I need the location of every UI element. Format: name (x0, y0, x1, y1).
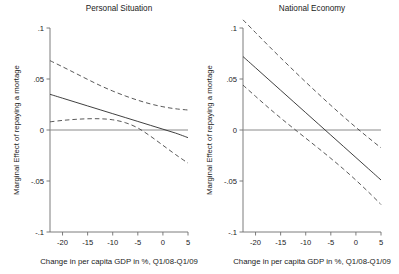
y-axis-label: Marginal Effect of repaying a mortage (12, 65, 21, 195)
x-tick-label: -20 (57, 238, 68, 247)
y-tick-label: -.05 (31, 177, 44, 186)
y-tick-label: .1 (231, 24, 237, 33)
x-tick-label: -10 (300, 238, 311, 247)
confidence-band-curve (243, 85, 381, 204)
two-panel-line-chart: Personal Situation-.1-.050.05.1-20-15-10… (0, 0, 399, 274)
y-tick-label: .05 (226, 75, 237, 84)
y-axis-label: Marginal Effect of repaying a mortage (205, 65, 214, 195)
confidence-band-curve (243, 20, 381, 148)
x-tick-label: 5 (379, 238, 383, 247)
x-tick-label: 0 (161, 238, 165, 247)
y-tick-label: .1 (38, 24, 44, 33)
y-tick-label: -.1 (228, 228, 237, 237)
x-tick-label: -15 (275, 238, 286, 247)
marginal-effect-curve (243, 57, 381, 180)
panel-national-economy: National Economy-.1-.050.05.1-20-15-10-5… (205, 4, 391, 266)
y-tick-label: -.05 (224, 177, 237, 186)
x-tick-label: -20 (250, 238, 261, 247)
y-tick-label: 0 (40, 126, 44, 135)
y-tick-label: -.1 (35, 228, 44, 237)
x-tick-label: -10 (107, 238, 118, 247)
x-axis-label: Change in per capita GDP in %, Q1/08-Q1/… (233, 257, 391, 266)
x-tick-label: 5 (186, 238, 190, 247)
x-axis-label: Change in per capita GDP in %, Q1/08-Q1/… (40, 257, 198, 266)
confidence-band-curve (50, 61, 188, 110)
marginal-effect-curve (50, 94, 188, 137)
figure-container: Personal Situation-.1-.050.05.1-20-15-10… (0, 0, 399, 274)
panel-personal-situation: Personal Situation-.1-.050.05.1-20-15-10… (12, 4, 198, 266)
y-tick-label: .05 (33, 75, 44, 84)
panel-title: National Economy (279, 4, 346, 13)
confidence-band-curve (50, 119, 188, 163)
x-tick-label: -5 (327, 238, 334, 247)
panel-title: Personal Situation (86, 4, 153, 13)
x-tick-label: -5 (134, 238, 141, 247)
y-tick-label: 0 (233, 126, 237, 135)
x-tick-label: -15 (82, 238, 93, 247)
x-tick-label: 0 (354, 238, 358, 247)
